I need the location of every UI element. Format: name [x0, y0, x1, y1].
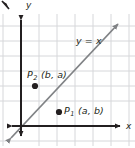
y-axis-label: y [26, 1, 31, 10]
coordinate-plane-figure: y x y = x P2 (b, a) P1 (a, b) [0, 0, 135, 148]
figure-canvas [0, 0, 135, 148]
point-p2-coordinates: (b, a) [41, 69, 67, 80]
point-p1-label: P1 (a, b) [64, 106, 104, 117]
point-p2-label-base: P [27, 69, 33, 80]
x-axis-label: x [126, 122, 131, 131]
point-p2-dot [32, 83, 38, 89]
point-p1-dot [56, 109, 62, 115]
point-p2-label: P2 (b, a) [27, 70, 67, 81]
point-p1-label-subscript: 1 [70, 110, 75, 118]
point-p2-label-subscript: 2 [33, 74, 38, 82]
corner-arrow-mark [2, 1, 9, 9]
line-equation-label: y = x [76, 36, 102, 46]
point-p1-label-base: P [64, 105, 70, 116]
point-p1-coordinates: (a, b) [78, 105, 104, 116]
